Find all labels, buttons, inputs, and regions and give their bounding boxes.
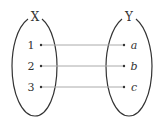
y-element-b: b xyxy=(130,60,137,73)
y-point-c xyxy=(123,86,125,88)
x-point-1 xyxy=(40,44,42,46)
set-x-label: X xyxy=(31,10,40,24)
x-element-1: 1 xyxy=(28,39,35,52)
y-point-a xyxy=(123,44,125,46)
mapping-diagram: X Y 1 2 3 a b c xyxy=(0,0,160,124)
x-element-3: 3 xyxy=(28,81,35,94)
x-point-3 xyxy=(40,86,42,88)
y-element-a: a xyxy=(131,39,138,52)
y-point-b xyxy=(123,65,125,67)
set-y-label: Y xyxy=(124,10,134,24)
set-y-ellipse xyxy=(106,19,152,116)
y-element-c: c xyxy=(131,81,137,94)
set-x-ellipse xyxy=(12,19,57,116)
x-point-2 xyxy=(40,65,42,67)
x-element-2: 2 xyxy=(28,60,35,73)
